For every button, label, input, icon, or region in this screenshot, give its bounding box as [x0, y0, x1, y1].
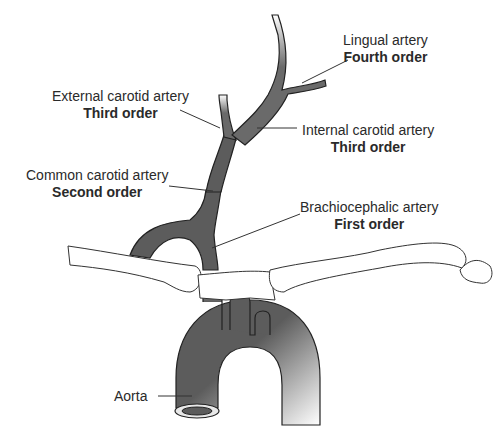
sternum [198, 271, 275, 300]
label-order: Fourth order [343, 49, 428, 66]
label-order: Third order [52, 105, 189, 122]
label-external-carotid-artery: External carotid artery Third order [52, 88, 189, 122]
label-lingual-artery: Lingual artery Fourth order [343, 32, 428, 66]
common-carotid-artery [206, 135, 237, 192]
label-name: Lingual artery [343, 32, 428, 49]
label-name: Aorta [114, 388, 147, 405]
label-name: Internal carotid artery [302, 122, 434, 139]
leader-brachiocephalic [212, 214, 300, 248]
label-order: Third order [302, 139, 434, 156]
label-order: First order [300, 216, 439, 233]
label-aorta: Aorta [114, 388, 147, 405]
label-name: Brachiocephalic artery [300, 199, 439, 216]
label-order: Second order [26, 184, 168, 201]
label-name: Common carotid artery [26, 167, 168, 184]
label-brachiocephalic-artery: Brachiocephalic artery First order [300, 199, 439, 233]
label-name: External carotid artery [52, 88, 189, 105]
label-common-carotid-artery: Common carotid artery Second order [26, 167, 168, 201]
label-internal-carotid-artery: Internal carotid artery Third order [302, 122, 434, 156]
clavicle-right [269, 243, 492, 292]
